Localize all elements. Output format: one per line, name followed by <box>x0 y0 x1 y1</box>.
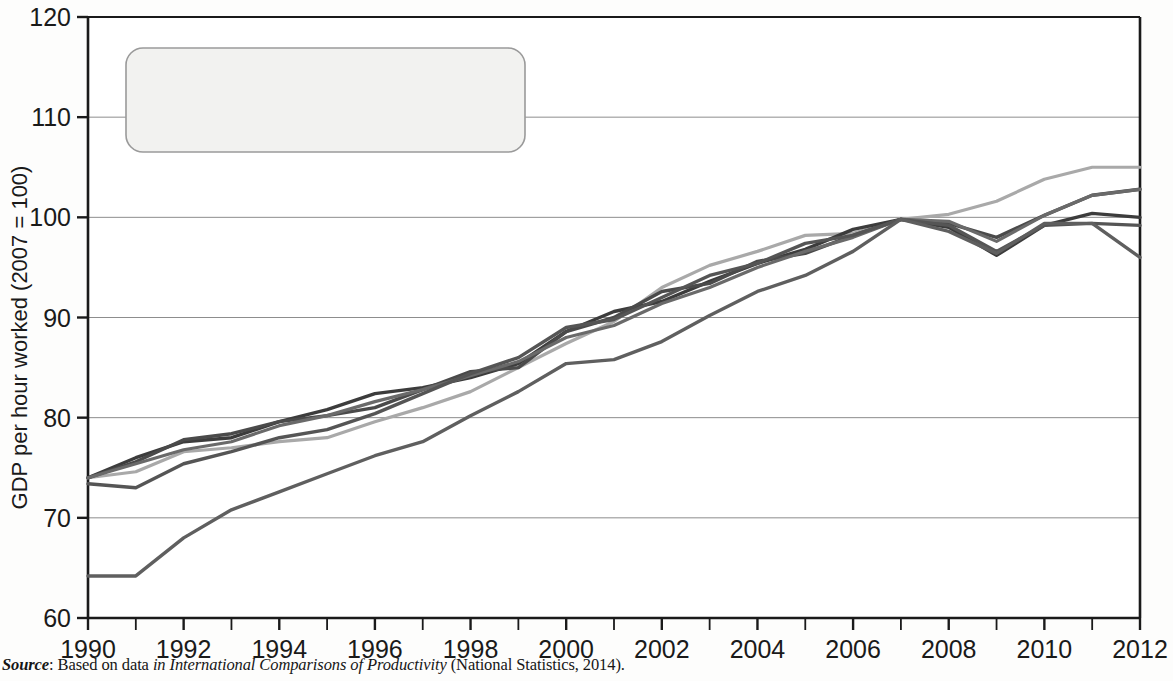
legend <box>126 48 525 152</box>
x-tick-label: 2002 <box>634 635 690 663</box>
y-tick-label: 70 <box>43 504 71 532</box>
y-tick-label: 120 <box>29 3 71 31</box>
source-text-b: (National Statistics, 2014). <box>447 655 625 674</box>
x-tick-label: 2004 <box>730 635 786 663</box>
source-publication: in International Comparisons of Producti… <box>153 655 447 674</box>
source-text-a: : Based on data <box>49 655 153 674</box>
line-chart: 6070809010011012019901992199419961998200… <box>0 0 1173 681</box>
figure-container: 6070809010011012019901992199419961998200… <box>0 0 1173 681</box>
legend-box <box>126 48 525 152</box>
y-tick-label: 80 <box>43 404 71 432</box>
y-tick-label: 100 <box>29 203 71 231</box>
source-note: Source: Based on data in International C… <box>2 655 625 675</box>
y-tick-label: 60 <box>43 604 71 632</box>
y-axis-title: GDP per hour worked (2007 = 100) <box>7 166 32 510</box>
y-tick-label: 110 <box>31 103 71 131</box>
x-tick-label: 2008 <box>921 635 977 663</box>
source-label: Source <box>2 655 49 674</box>
y-tick-label: 90 <box>43 304 71 332</box>
x-tick-label: 2012 <box>1112 635 1168 663</box>
x-tick-label: 2006 <box>825 635 881 663</box>
x-tick-label: 2010 <box>1017 635 1073 663</box>
